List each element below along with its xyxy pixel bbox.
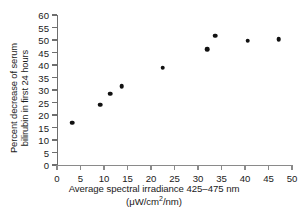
x-axis-tick (197, 165, 198, 170)
y-axis-tick-label: 25 (38, 97, 49, 108)
x-axis-tick (291, 165, 292, 170)
y-axis-tick (52, 39, 57, 40)
y-axis-tick (52, 64, 57, 65)
data-point (70, 120, 75, 125)
plot-area: 0510152025303540455055600510152025303540… (57, 15, 292, 165)
y-axis-tick-label: 60 (38, 10, 49, 21)
data-point (120, 84, 125, 89)
y-axis-tick-label: 40 (38, 60, 49, 71)
y-axis-tick-label: 20 (38, 110, 49, 121)
y-axis-tick (52, 114, 57, 115)
x-axis-tick (268, 165, 269, 170)
x-axis-tick (174, 165, 175, 170)
x-axis-tick (80, 165, 81, 170)
data-point (98, 102, 103, 107)
y-axis-tick-label: 5 (44, 147, 49, 158)
y-axis-title-line-1: Percent decrease of serum (8, 43, 19, 153)
x-axis-title: Average spectral irradiance 425–475 nm (… (0, 183, 308, 208)
y-axis-tick-label: 30 (38, 85, 49, 96)
y-axis-tick (52, 139, 57, 140)
y-axis-tick-label: 0 (44, 160, 49, 171)
y-axis-tick-label: 55 (38, 22, 49, 33)
x-axis-tick (103, 165, 104, 170)
y-axis-tick-label: 50 (38, 35, 49, 46)
y-axis-title: Percent decrease of serum bilirubin in f… (4, 10, 34, 186)
y-axis-line (57, 15, 58, 165)
y-axis-tick-label: 10 (38, 135, 49, 146)
data-point (246, 38, 251, 43)
y-axis-tick-label: 15 (38, 122, 49, 133)
x-axis-title-units: (μW/cm2/nm) (0, 195, 308, 208)
units-text: (μW/cm2/nm) (126, 196, 182, 207)
y-axis-tick (52, 127, 57, 128)
x-axis-tick (56, 165, 57, 170)
data-point (205, 47, 210, 52)
data-point (277, 37, 282, 42)
y-axis-tick (52, 89, 57, 90)
y-axis-tick-label: 45 (38, 47, 49, 58)
y-axis-tick (52, 102, 57, 103)
data-point (160, 65, 165, 70)
y-axis-tick-label: 35 (38, 72, 49, 83)
x-axis-tick (127, 165, 128, 170)
y-axis-tick (52, 152, 57, 153)
data-point (213, 33, 218, 38)
units-superscript-2: 2 (159, 195, 163, 202)
data-point (108, 91, 113, 96)
x-axis-title-main: Average spectral irradiance 425–475 nm (0, 183, 308, 195)
y-axis-tick (52, 52, 57, 53)
y-axis-title-line-2: bilirubin in first 24 hours (19, 50, 30, 146)
x-axis-tick (150, 165, 151, 170)
x-axis-tick (244, 165, 245, 170)
y-axis-tick (52, 77, 57, 78)
y-axis-tick (52, 27, 57, 28)
scatter-chart-figure: Percent decrease of serum bilirubin in f… (0, 0, 308, 218)
x-axis-tick (221, 165, 222, 170)
y-axis-tick (52, 14, 57, 15)
